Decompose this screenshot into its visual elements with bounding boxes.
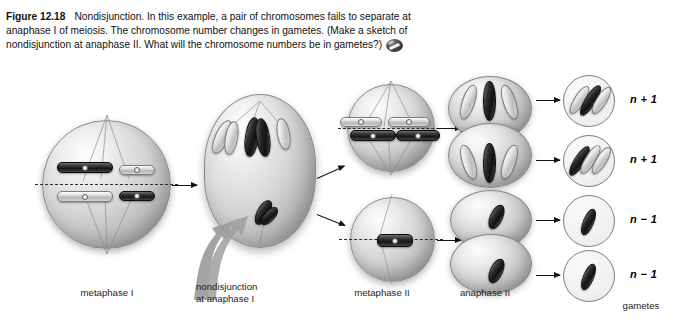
stage-label-metaphase-ii: metaphase II <box>334 287 430 299</box>
chromosome-light-m2-1 <box>340 117 382 127</box>
arrow-to-gamete-2 <box>536 160 560 161</box>
gamete-3-chromosome-dark-1 <box>578 207 599 237</box>
arrow-to-metaphase-ii-bottom <box>317 214 345 226</box>
stage-label-gametes: gametes <box>608 300 674 312</box>
chromosome-light-small-1 <box>119 165 155 175</box>
arrow-to-gamete-4 <box>536 275 560 276</box>
cell-anaphase-ii-top <box>448 76 530 188</box>
ploidy-label-gamete-1: n + 1 <box>630 93 657 105</box>
caption-line-4: What will the chromosome numbers be in g… <box>144 39 382 50</box>
figure-label: Figure 12.18 <box>6 11 65 22</box>
metaphase-plate-ii-top <box>338 128 444 129</box>
meiosis-nondisjunction-diagram: n + 1 n + 1 n − 1 n − 1 metaphase I nond… <box>0 72 679 297</box>
cell-gamete-4 <box>563 250 615 302</box>
stage-label-anaphase-ii: anaphase II <box>440 287 530 299</box>
chromosome-dark-large-1 <box>57 162 113 173</box>
chromosome-dark-a2-1 <box>483 81 496 121</box>
figure-caption: Figure 12.18Nondisjunction. In this exam… <box>6 10 436 53</box>
ploidy-label-gamete-4: n − 1 <box>630 268 657 280</box>
cell-metaphase-ii-bottom <box>350 197 435 282</box>
chromosome-light-m2-2 <box>388 117 430 127</box>
nondisjunction-pointer-arrow <box>176 150 272 300</box>
media-cell-icon <box>386 39 403 52</box>
ploidy-label-gamete-2: n + 1 <box>630 153 657 165</box>
chromosome-dark-m2-2 <box>396 130 440 141</box>
cell-metaphase-i <box>42 120 171 249</box>
cell-anaphase-ii-bottom <box>450 190 530 294</box>
chromosome-dark-m2-3 <box>377 234 413 247</box>
chromosome-dark-small-1 <box>119 191 155 201</box>
stage-label-metaphase-i: metaphase I <box>62 287 152 299</box>
arrow-to-gamete-3 <box>536 220 560 221</box>
cell-gamete-2 <box>563 135 615 187</box>
ploidy-label-gamete-3: n − 1 <box>630 213 657 225</box>
arrow-to-gamete-1 <box>536 100 560 101</box>
metaphase-plate-i <box>35 184 178 185</box>
caption-line-1: Nondisjunction. In this example, a pair … <box>74 11 324 22</box>
cell-metaphase-ii-top <box>347 84 435 172</box>
gamete-4-chromosome-dark-1 <box>578 262 599 292</box>
chromosome-light-large-1 <box>57 191 113 202</box>
arrow-to-metaphase-ii-top <box>317 166 345 179</box>
chromosome-dark-m2-1 <box>350 130 396 141</box>
stage-label-nondisjunction: nondisjunction at anaphase I <box>196 281 302 304</box>
anaphase-ii-bottom-lobe-lower <box>450 234 532 294</box>
cell-gamete-1 <box>563 75 615 127</box>
chromosome-dark-a2-2 <box>483 143 496 183</box>
cell-gamete-3 <box>563 195 615 247</box>
